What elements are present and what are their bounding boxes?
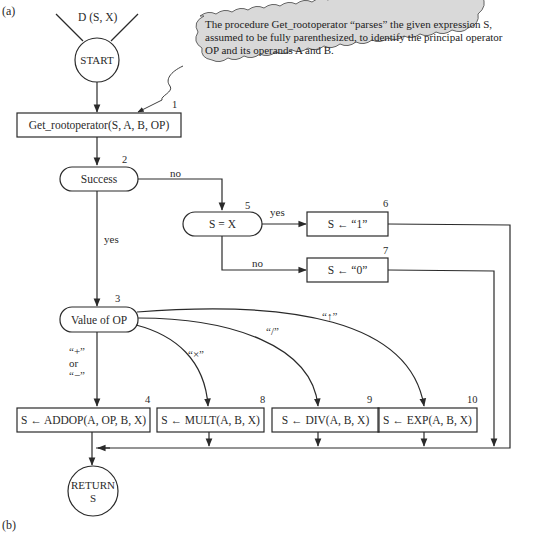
node-label-10: S ← EXP(A, B, X) <box>378 408 477 432</box>
edge-exp <box>137 309 424 406</box>
note-text: The procedure Get_rootoperator “parses” … <box>205 18 505 57</box>
edge-label-plus: “+” <box>69 346 85 357</box>
node-label-7: S ← “0” <box>307 258 388 282</box>
edge-label-minus: “−” <box>69 370 85 381</box>
node-label-4: S ← ADDOP(A, OP, B, X) <box>17 408 150 432</box>
flowchart-canvas <box>0 0 552 535</box>
node-label-9: S ← DIV(A, B, X) <box>272 408 379 432</box>
node-label-2: Success <box>60 167 138 191</box>
node-number-8: 8 <box>260 395 265 406</box>
node-number-5: 5 <box>245 201 250 212</box>
edge-div <box>138 318 318 406</box>
node-label-1: Get_rootoperator(S, A, B, OP) <box>17 113 181 137</box>
node-number-1: 1 <box>172 100 177 111</box>
node-number-10: 10 <box>467 395 478 406</box>
node-label-5: S = X <box>183 212 262 236</box>
node-number-7: 7 <box>383 246 388 257</box>
node-label-8: S ← MULT(A, B, X) <box>157 408 264 432</box>
panel-a-label: (a) <box>2 5 15 17</box>
edge-label-times: “×” <box>188 349 204 360</box>
start-input-label: D (S, X) <box>78 12 117 24</box>
panel-b-label: (b) <box>2 519 16 531</box>
edge-label-exp: “↑” <box>322 311 337 322</box>
return-line-1: RETURN <box>71 479 115 492</box>
node-number-2: 2 <box>122 155 127 166</box>
edge-label-success-yes: yes <box>104 234 119 245</box>
node-label-3: Value of OP <box>60 307 138 332</box>
node-number-9: 9 <box>367 395 372 406</box>
node-label-6: S ← “1” <box>307 212 388 236</box>
edge-label-or: or <box>69 358 78 369</box>
return-label: RETURN S <box>68 478 118 506</box>
start-label: START <box>75 49 119 71</box>
node-number-6: 6 <box>383 199 388 210</box>
return-line-2: S <box>90 492 96 505</box>
node-number-3: 3 <box>115 294 120 305</box>
edge-label-eq-no: no <box>252 258 263 269</box>
edge-label-success-no: no <box>170 168 181 179</box>
edge-label-div: “/” <box>266 326 279 337</box>
node-number-4: 4 <box>145 395 150 406</box>
edge-label-eq-yes: yes <box>270 207 285 218</box>
